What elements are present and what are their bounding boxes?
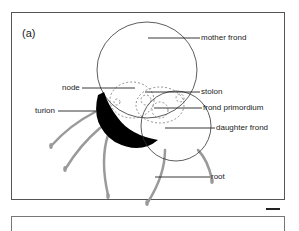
label-daughter-frond: daughter frond — [216, 124, 268, 132]
panel-label: (a) — [22, 27, 35, 39]
roots — [52, 112, 212, 202]
label-node: node — [62, 84, 80, 92]
label-stolon: stolon — [201, 88, 222, 96]
mother-frond — [97, 22, 197, 118]
label-turion: turion — [35, 107, 55, 115]
duckweed-diagram — [0, 0, 299, 231]
label-root: root — [211, 173, 225, 181]
root-tips — [49, 143, 214, 206]
label-frond-primordium: frond primordium — [203, 104, 263, 112]
label-mother-frond: mother frond — [201, 34, 246, 42]
